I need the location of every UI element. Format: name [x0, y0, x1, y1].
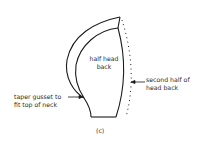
left-label-line1: taper gusset to: [14, 93, 61, 101]
taper-gusset-label: taper gusset to fit top of neck: [14, 93, 61, 108]
center-label-line2: back: [84, 63, 124, 71]
center-label-line1: half head: [84, 55, 124, 63]
half-head-back-label: half head back: [84, 55, 124, 70]
right-arrow: [131, 81, 145, 84]
left-label-line2: fit top of neck: [14, 101, 61, 109]
left-arrow: [68, 96, 83, 99]
right-label-line2: head back: [146, 84, 190, 92]
figure-caption: (c): [96, 127, 104, 135]
second-half-label: second half of head back: [146, 76, 190, 91]
right-label-line1: second half of: [146, 76, 190, 84]
gusset-pattern-diagram: [0, 0, 211, 143]
